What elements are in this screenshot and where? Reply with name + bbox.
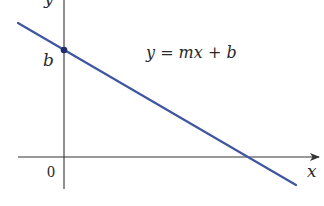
intercept-label: b <box>43 50 54 70</box>
y-intercept-point <box>61 47 68 54</box>
y-axis-label: y <box>43 0 54 8</box>
x-axis-label: x <box>307 161 317 181</box>
line-graph-diagram: y b y = mx + b 0 x <box>0 0 324 206</box>
origin-label: 0 <box>47 163 55 180</box>
equation-label: y = mx + b <box>145 43 237 62</box>
